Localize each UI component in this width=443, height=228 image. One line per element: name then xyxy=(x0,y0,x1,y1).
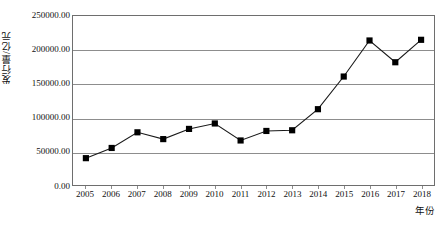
x-tick-mark xyxy=(370,186,371,189)
data-point-marker xyxy=(238,137,244,143)
x-axis-title: 年份 xyxy=(415,206,435,217)
x-tick-mark xyxy=(241,186,242,189)
x-tick-mark xyxy=(189,186,190,189)
x-tick-label: 2012 xyxy=(257,189,275,199)
data-point-marker xyxy=(263,128,269,134)
x-tick-label: 2017 xyxy=(387,189,405,199)
y-axis-tick-labels: 0.0050000.00100000.00150000.00200000.002… xyxy=(16,0,70,228)
x-tick-label: 2009 xyxy=(180,189,198,199)
data-point-marker xyxy=(212,120,218,126)
x-tick-mark xyxy=(266,186,267,189)
x-tick-mark xyxy=(163,186,164,189)
x-tick-mark xyxy=(344,186,345,189)
x-tick-label: 2016 xyxy=(361,189,379,199)
x-tick-label: 2007 xyxy=(128,189,146,199)
series-line-发行量 xyxy=(73,16,434,186)
x-axis-tick-labels: 2005200620072008200920102011201220132014… xyxy=(72,189,435,203)
data-point-marker xyxy=(134,129,140,135)
series-markers xyxy=(83,37,424,162)
x-tick-label: 2013 xyxy=(283,189,301,199)
y-tick-label: 250000.00 xyxy=(18,11,70,20)
x-tick-mark xyxy=(396,186,397,189)
y-tick-label: 50000.00 xyxy=(18,147,70,156)
x-tick-mark xyxy=(318,186,319,189)
data-point-marker xyxy=(418,37,424,43)
x-tick-mark xyxy=(422,186,423,189)
x-tick-label: 2010 xyxy=(206,189,224,199)
x-tick-mark xyxy=(215,186,216,189)
data-point-marker xyxy=(109,145,115,151)
y-tick-label: 0.00 xyxy=(18,182,70,191)
y-tick-label: 100000.00 xyxy=(18,113,70,122)
x-tick-mark xyxy=(292,186,293,189)
y-tick-label: 200000.00 xyxy=(18,45,70,54)
x-tick-label: 2005 xyxy=(76,189,94,199)
data-point-marker xyxy=(341,73,347,79)
x-tick-label: 2014 xyxy=(309,189,327,199)
y-tick-label: 150000.00 xyxy=(18,79,70,88)
data-point-marker xyxy=(160,136,166,142)
series-polyline xyxy=(86,40,421,158)
data-point-marker xyxy=(366,37,372,43)
x-tick-label: 2011 xyxy=(232,189,250,199)
x-tick-label: 2015 xyxy=(335,189,353,199)
x-tick-label: 2018 xyxy=(413,189,431,199)
data-point-marker xyxy=(289,127,295,133)
data-point-marker xyxy=(83,155,89,161)
x-tick-label: 2008 xyxy=(154,189,172,199)
data-point-marker xyxy=(186,126,192,132)
x-tick-mark xyxy=(137,186,138,189)
data-point-marker xyxy=(392,59,398,65)
y-axis-title: 发行量/亿元 xyxy=(2,22,16,94)
x-tick-mark xyxy=(111,186,112,189)
x-tick-mark xyxy=(85,186,86,189)
chart-figure: 发行量/亿元 0.0050000.00100000.00150000.00200… xyxy=(0,0,443,228)
data-point-marker xyxy=(315,106,321,112)
x-tick-label: 2006 xyxy=(102,189,120,199)
plot-area xyxy=(72,15,435,186)
